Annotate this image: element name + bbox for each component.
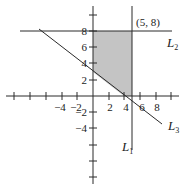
line-label-l2: L2 (166, 35, 178, 52)
line-label-l3: L3 (167, 118, 179, 135)
y-tick-label: 6 (82, 41, 88, 53)
y-tick-label: −2 (75, 106, 87, 118)
x-tick-label: −4 (54, 101, 66, 113)
x-tick-label: 2 (107, 101, 113, 113)
y-tick-label: 2 (82, 74, 88, 86)
y-tick-label: 4 (82, 57, 88, 69)
point-label-5-8: (5, 8) (136, 16, 160, 29)
x-tick-label: 6 (139, 101, 145, 113)
x-tick-label: 8 (154, 101, 160, 113)
y-tick-label: −4 (75, 122, 87, 134)
line-label-l1: L1 (121, 139, 133, 156)
coordinate-diagram: −4 −2 2 4 6 8 8 6 4 2 −2 −4 (5, 8) L2 L3… (0, 0, 187, 186)
x-tick-label: 4 (123, 101, 129, 113)
y-tick-label: 8 (82, 25, 88, 37)
